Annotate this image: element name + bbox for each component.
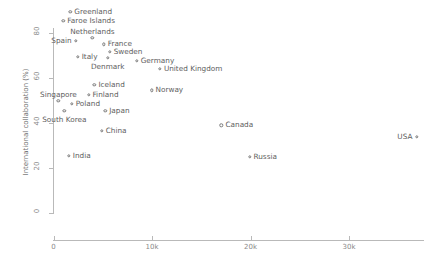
y-tick-label: 80 xyxy=(30,27,44,35)
data-point-label: Canada xyxy=(225,122,253,129)
x-tick-mark xyxy=(152,236,153,240)
data-point[interactable] xyxy=(63,109,66,112)
data-point[interactable] xyxy=(87,93,90,96)
y-tick-mark xyxy=(49,213,53,214)
data-point[interactable] xyxy=(57,99,60,102)
data-point[interactable] xyxy=(135,59,138,62)
data-point[interactable] xyxy=(415,135,418,138)
data-point-label: Greenland xyxy=(74,8,112,15)
data-point[interactable] xyxy=(76,55,79,58)
data-point[interactable] xyxy=(70,102,73,105)
data-point-label: Netherlands xyxy=(70,27,114,34)
y-axis-title: International collaboration (%) xyxy=(22,42,30,202)
data-point[interactable] xyxy=(106,56,109,59)
data-point[interactable] xyxy=(248,155,251,158)
data-point[interactable] xyxy=(108,50,111,53)
x-axis-line xyxy=(53,240,424,241)
data-point-label: Spain xyxy=(51,37,71,44)
data-point[interactable] xyxy=(74,39,77,42)
y-tick-mark xyxy=(49,168,53,169)
y-tick-label: 60 xyxy=(30,72,44,80)
data-point[interactable] xyxy=(158,67,161,70)
data-point-label: Finland xyxy=(92,91,118,98)
scatter-plot: International collaboration (%) 02040608… xyxy=(0,0,429,267)
y-tick-mark xyxy=(49,33,53,34)
x-tick-label: 10k xyxy=(146,243,159,251)
data-point[interactable] xyxy=(91,36,94,39)
x-tick-mark xyxy=(349,236,350,240)
x-tick-label: 0 xyxy=(51,243,55,251)
data-point-label: Faroe Islands xyxy=(67,17,115,24)
data-point-label: Norway xyxy=(156,87,184,94)
data-point-label: USA xyxy=(397,133,412,140)
data-point-label: Poland xyxy=(76,100,100,107)
data-point[interactable] xyxy=(68,10,71,13)
data-point-label: India xyxy=(73,152,91,159)
data-point[interactable] xyxy=(62,19,65,22)
data-point[interactable] xyxy=(150,89,153,92)
data-point-label: Italy xyxy=(82,53,98,60)
y-tick-mark xyxy=(49,78,53,79)
data-point-label: South Korea xyxy=(42,115,86,122)
x-tick-label: 20k xyxy=(244,243,257,251)
data-point-label: Iceland xyxy=(98,81,124,88)
data-point[interactable] xyxy=(100,129,103,132)
data-point-label: Japan xyxy=(109,107,129,114)
data-point[interactable] xyxy=(220,124,223,127)
data-point-label: Sweden xyxy=(114,48,143,55)
x-tick-label: 30k xyxy=(343,243,356,251)
data-point-label: Denmark xyxy=(91,62,125,69)
data-point[interactable] xyxy=(102,43,105,46)
data-point-label: United Kingdom xyxy=(164,65,223,72)
y-tick-label: 0 xyxy=(30,207,44,215)
data-point-label: Singapore xyxy=(40,90,77,97)
data-point-label: China xyxy=(106,127,127,134)
x-tick-mark xyxy=(54,236,55,240)
x-tick-mark xyxy=(251,236,252,240)
data-point[interactable] xyxy=(103,109,106,112)
data-point-label: Russia xyxy=(254,153,277,160)
data-point[interactable] xyxy=(93,83,96,86)
y-tick-label: 20 xyxy=(30,162,44,170)
data-point[interactable] xyxy=(67,154,70,157)
